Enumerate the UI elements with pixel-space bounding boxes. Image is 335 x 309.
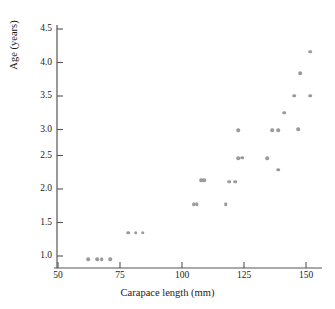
data-point: [224, 203, 228, 207]
data-point: [141, 231, 145, 235]
data-point: [296, 128, 300, 132]
data-point: [298, 71, 302, 75]
data-points-layer: [0, 0, 335, 309]
data-point: [202, 178, 206, 182]
data-point: [227, 180, 231, 184]
data-point: [86, 258, 90, 262]
data-point: [276, 128, 280, 132]
data-point: [95, 258, 99, 262]
data-point: [308, 50, 312, 54]
data-point: [100, 258, 104, 262]
data-point: [134, 231, 138, 235]
data-point: [240, 156, 244, 160]
data-point: [195, 203, 199, 207]
data-point: [276, 168, 280, 172]
data-point: [265, 156, 269, 160]
data-point: [282, 111, 286, 115]
scatter-plot-figure: 4.5 4.0 3.5 3.0 2.5 2.0 1.5 1.0 50 75 10…: [0, 0, 335, 309]
data-point: [292, 94, 296, 98]
data-point: [233, 180, 237, 184]
data-point: [270, 128, 274, 132]
data-point: [236, 128, 240, 132]
data-point: [126, 231, 130, 235]
data-point: [108, 258, 112, 262]
data-point: [308, 94, 312, 98]
